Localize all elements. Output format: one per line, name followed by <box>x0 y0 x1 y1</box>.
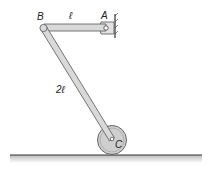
pin-c-icon <box>110 137 114 141</box>
joint-b-icon <box>40 24 47 31</box>
label-a: A <box>100 10 108 21</box>
label-c: C <box>115 139 123 150</box>
label-b: B <box>37 11 44 22</box>
wall-support <box>115 13 118 38</box>
linkage-diagram: B A ℓ 2ℓ C <box>0 0 213 171</box>
label-length-ab: ℓ <box>68 10 73 21</box>
link-ab <box>44 24 106 31</box>
link-bc <box>41 26 115 141</box>
ground <box>10 155 202 163</box>
pin-a-icon <box>104 26 108 30</box>
label-length-bc: 2ℓ <box>55 84 66 95</box>
